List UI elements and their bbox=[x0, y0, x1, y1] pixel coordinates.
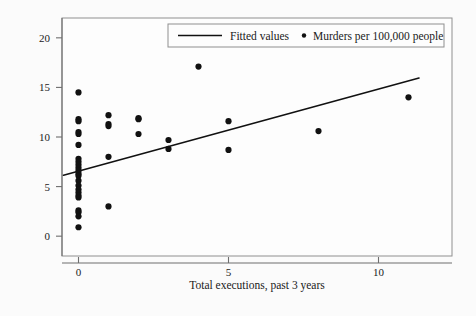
scatter-point bbox=[75, 89, 81, 95]
plot-frame bbox=[62, 18, 452, 256]
legend-label-scatter: Murders per 100,000 people bbox=[313, 30, 443, 43]
scatter-point bbox=[75, 194, 81, 200]
scatter-point bbox=[225, 118, 231, 124]
scatter-point bbox=[105, 203, 111, 209]
legend-dot-marker-icon bbox=[302, 33, 306, 37]
y-tick-label: 15 bbox=[39, 81, 51, 93]
scatter-point bbox=[195, 63, 201, 69]
scatter-plot: 05101520 0510 Total executions, past 3 y… bbox=[0, 0, 476, 316]
scatter-point bbox=[75, 131, 81, 137]
x-axis-title: Total executions, past 3 years bbox=[189, 279, 325, 292]
scatter-point bbox=[105, 123, 111, 129]
scatter-point bbox=[75, 142, 81, 148]
scatter-point bbox=[105, 154, 111, 160]
scatter-point bbox=[135, 131, 141, 137]
scatter-point bbox=[405, 94, 411, 100]
scatter-point bbox=[75, 213, 81, 219]
scatter-point bbox=[135, 116, 141, 122]
scatter-point bbox=[75, 224, 81, 230]
y-tick-label: 0 bbox=[45, 230, 51, 242]
y-tick-label: 20 bbox=[39, 32, 51, 44]
x-tick-label: 0 bbox=[76, 266, 82, 278]
scatter-point bbox=[225, 147, 231, 153]
legend-label-fitted: Fitted values bbox=[230, 30, 290, 42]
y-tick-label: 10 bbox=[39, 131, 51, 143]
scatter-point bbox=[75, 118, 81, 124]
x-tick-label: 10 bbox=[373, 266, 385, 278]
figure-container: 05101520 0510 Total executions, past 3 y… bbox=[0, 0, 476, 316]
scatter-point bbox=[105, 112, 111, 118]
scatter-point bbox=[315, 128, 321, 134]
legend: Fitted values Murders per 100,000 people bbox=[168, 24, 444, 47]
x-tick-label: 5 bbox=[226, 266, 232, 278]
y-tick-label: 5 bbox=[45, 181, 51, 193]
scatter-point bbox=[165, 137, 171, 143]
